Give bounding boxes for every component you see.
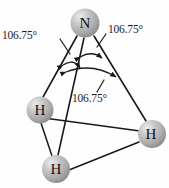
- bond-n-h-left: [43, 36, 77, 97]
- hydrogen-label-right: H: [146, 126, 157, 142]
- angle-label-middle: 106.75°: [72, 92, 107, 104]
- leader-line-middle: [97, 80, 104, 92]
- leader-line-right: [97, 34, 106, 47]
- bond-n-h-right: [94, 36, 146, 121]
- base-edge-left-bottom: [41, 123, 52, 156]
- angle-label-right: 106.75°: [108, 23, 143, 35]
- angle-label-left: 106.75°: [2, 29, 37, 41]
- hydrogen-label-bottom: H: [51, 161, 62, 177]
- base-edge-left-right: [44, 118, 140, 131]
- hydrogen-label-left: H: [35, 102, 46, 118]
- angle-arc-right: [80, 54, 102, 58]
- nitrogen-label: N: [80, 15, 91, 31]
- base-edge-bottom-right: [69, 142, 139, 170]
- hydrogen-atom-bottom: H: [42, 155, 70, 183]
- angle-arc-middle: [66, 68, 116, 77]
- nitrogen-atom: N: [71, 9, 100, 38]
- leader-line-left: [60, 39, 70, 54]
- hydrogen-atom-left: H: [27, 97, 54, 124]
- hydrogen-atom-right: H: [138, 120, 166, 148]
- nh3-molecule-diagram: H H H N 106.75° 106.75° 106.75°: [0, 0, 169, 188]
